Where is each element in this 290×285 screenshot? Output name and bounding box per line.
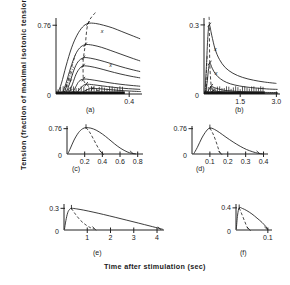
svg-text:0.3: 0.3 [189,22,199,29]
panel-c-caption: (c) [72,165,80,172]
panel-f-caption: (f) [240,249,247,256]
svg-text:0.1: 0.1 [263,234,273,241]
svg-text:0.4: 0.4 [221,204,231,211]
svg-text:0.76: 0.76 [48,125,62,132]
svg-text:0: 0 [47,92,51,99]
panel-b-caption: (b) [235,106,244,113]
dashed-descent [86,128,102,154]
svg-text:0: 0 [227,228,231,235]
svg-text:0.2: 0.2 [223,158,233,165]
svg-text:4: 4 [155,234,159,241]
svg-text:0.4: 0.4 [124,98,134,105]
series-curve-1 [194,128,263,154]
svg-text:2: 2 [109,234,113,241]
panel-c: 00.760.20.40.60.8 [45,120,147,172]
series-curve-1 [68,128,136,154]
annotation-x: x [213,46,217,52]
panel-d: 00.760.10.20.30.4 [172,120,272,172]
svg-text:0: 0 [195,92,199,99]
svg-text:3: 3 [132,234,136,241]
svg-text:0.76: 0.76 [173,125,187,132]
panel-a: 00.760.4xx [22,8,146,120]
svg-text:1: 1 [85,234,89,241]
svg-text:0.3: 0.3 [241,158,251,165]
annotation-x: x [108,62,112,68]
panel-f: 00.40.1 [218,198,280,248]
panel-a-caption: (a) [86,106,95,113]
svg-text:3.0: 3.0 [272,98,282,105]
series-curve-1 [236,207,268,229]
panel-d-caption: (d) [196,165,205,172]
annotation-x: x [214,70,218,76]
panel-e: 00.31234 [42,198,168,248]
svg-text:0.76: 0.76 [37,22,51,29]
panel-b-plot: 00.31.53.0xx [188,8,286,120]
svg-text:0.1: 0.1 [205,158,215,165]
panel-e-caption: (e) [93,249,102,256]
svg-text:1.5: 1.5 [235,98,245,105]
panel-b: 00.31.53.0xx [188,8,286,120]
svg-text:0.2: 0.2 [80,158,90,165]
series-curve-3 [66,58,140,94]
svg-text:0.6: 0.6 [115,158,125,165]
svg-text:0: 0 [58,152,62,159]
x-axis-label: Time after stimulation (sec) [104,262,206,271]
figure-panel-grid: Tension (fraction of maximal isotonic te… [0,0,290,285]
panel-d-plot: 00.760.10.20.30.4 [172,120,272,172]
series-curve-1 [205,25,276,92]
svg-text:0.8: 0.8 [133,158,143,165]
svg-text:0.4: 0.4 [97,158,107,165]
panel-e-plot: 00.31234 [42,198,168,248]
annotation-x: x [100,28,104,34]
panel-c-plot: 00.760.20.40.60.8 [45,120,147,172]
panel-a-plot: 00.760.4xx [22,8,146,120]
svg-text:0: 0 [55,228,59,235]
svg-text:0.3: 0.3 [49,205,59,212]
panel-f-plot: 00.40.1 [218,198,280,248]
svg-text:0.4: 0.4 [259,158,269,165]
svg-text:0: 0 [183,152,187,159]
